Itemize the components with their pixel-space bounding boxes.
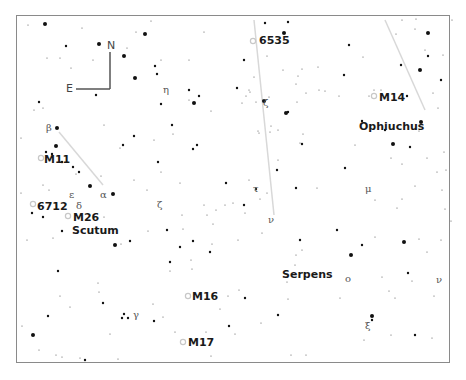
- deep-sky-label: 6535: [259, 35, 290, 46]
- star-greek-label: ο: [345, 274, 351, 284]
- star-greek-label: ν: [436, 275, 442, 285]
- star: [450, 220, 451, 221]
- constellation-label: Serpens: [282, 269, 333, 280]
- star-greek-label: η: [163, 85, 169, 95]
- compass-north-label: N: [107, 40, 115, 51]
- constellation-label: Ophiuchus: [359, 121, 424, 132]
- star: [451, 19, 452, 20]
- star-greek-label: α: [100, 190, 107, 200]
- deep-sky-label: M16: [192, 291, 218, 302]
- constellation-label: Scutum: [72, 225, 119, 236]
- star-greek-label: ζ: [157, 200, 162, 210]
- compass-east-label: E: [66, 83, 73, 94]
- deep-sky-label: M26: [73, 212, 99, 223]
- star-greek-label: δ: [76, 201, 82, 211]
- deep-sky-label: M11: [44, 154, 70, 165]
- star-greek-label: ν: [268, 215, 274, 225]
- star-greek-label: μ: [365, 184, 372, 194]
- star-greek-label: ζ: [263, 98, 268, 108]
- star-greek-label: β: [46, 123, 52, 133]
- star-greek-label: γ: [133, 310, 139, 320]
- star-greek-label: τ: [253, 184, 259, 194]
- deep-sky-label: M14: [379, 92, 405, 103]
- deep-sky-label: M17: [188, 337, 214, 348]
- chart-frame: [16, 15, 450, 363]
- star-greek-label: ε: [69, 190, 74, 200]
- star-greek-label: ξ: [365, 321, 371, 331]
- deep-sky-label: 6712: [37, 201, 68, 212]
